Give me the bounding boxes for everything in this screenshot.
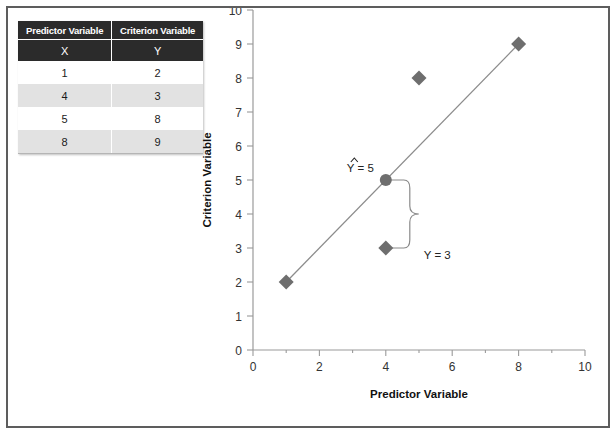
chart-svg: 012345678910 0246810 Y= 5Y = 3 Predictor… (196, 8, 606, 418)
y-tick-label: 6 (235, 140, 242, 154)
observed-annotation: Y = 3 (424, 249, 451, 261)
y-tick-label: 2 (235, 276, 242, 290)
x-tick-label: 8 (515, 360, 522, 374)
table-header-row: Predictor Variable Criterion Variable (18, 21, 203, 40)
cell-x: 5 (18, 107, 112, 130)
table-row: 8 9 (18, 130, 203, 154)
y-tick-label: 5 (235, 174, 242, 188)
y-axis-ticks: 012345678910 (229, 8, 253, 358)
x-tick-label: 0 (250, 360, 257, 374)
y-axis-title: Criterion Variable (201, 132, 213, 227)
cell-x: 8 (18, 130, 112, 154)
symbol-header-y: Y (112, 40, 203, 62)
cell-x: 1 (18, 61, 112, 84)
figure-root: Predictor Variable Criterion Variable X … (0, 0, 616, 434)
table-row: 5 8 (18, 107, 203, 130)
x-axis-ticks: 0246810 (250, 350, 592, 374)
column-header-predictor: Predictor Variable (18, 21, 112, 40)
regression-line-path (286, 44, 518, 282)
data-point-diamond (378, 241, 393, 256)
x-tick-label: 4 (382, 360, 389, 374)
table-row: 4 3 (18, 84, 203, 107)
y-tick-label: 7 (235, 106, 242, 120)
y-tick-label: 10 (229, 8, 243, 18)
y-tick-label: 0 (235, 344, 242, 358)
y-tick-label: 4 (235, 208, 242, 222)
x-tick-label: 6 (449, 360, 456, 374)
table-symbol-row: X Y (18, 40, 203, 62)
column-header-criterion: Criterion Variable (112, 21, 203, 40)
y-tick-label: 3 (235, 242, 242, 256)
x-tick-label: 10 (578, 360, 592, 374)
x-tick-label: 2 (316, 360, 323, 374)
y-tick-label: 8 (235, 72, 242, 86)
cell-y: 9 (112, 130, 203, 154)
y-tick-label: 1 (235, 310, 242, 324)
residual-brace (389, 180, 419, 248)
data-point-diamond (412, 71, 427, 86)
predicted-annotation: Y= 5 (347, 162, 374, 174)
predictor-criterion-table: Predictor Variable Criterion Variable X … (18, 21, 203, 154)
symbol-header-x: X (18, 40, 112, 62)
table-row: 1 2 (18, 61, 203, 84)
predicted-point-dot (380, 174, 392, 186)
cell-y: 2 (112, 61, 203, 84)
chart-annotations: Y= 5Y = 3 (347, 158, 451, 261)
cell-y: 8 (112, 107, 203, 130)
scatter-plot: 012345678910 0246810 Y= 5Y = 3 Predictor… (196, 8, 606, 418)
x-axis-title: Predictor Variable (370, 388, 468, 400)
residual-brace-path (389, 180, 419, 248)
regression-line (286, 44, 518, 282)
cell-x: 4 (18, 84, 112, 107)
y-tick-label: 9 (235, 38, 242, 52)
cell-y: 3 (112, 84, 203, 107)
predicted-point (380, 174, 392, 186)
